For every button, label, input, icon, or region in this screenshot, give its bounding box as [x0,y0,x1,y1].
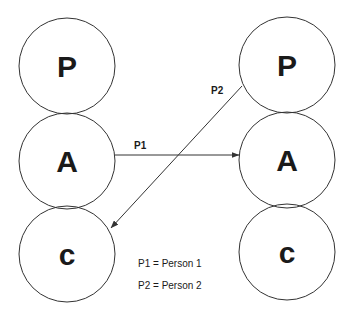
legend-item-p2: P2 = Person 2 [138,280,202,291]
left-column: P A c [19,18,115,302]
edge-label-p1: P1 [134,140,147,151]
node-right-c: c [239,204,335,300]
legend: P1 = Person 1 P2 = Person 2 [138,258,202,291]
right-column: P A c [239,17,335,300]
arrow-p2-line [111,86,242,228]
node-left-p: P [19,18,115,114]
node-label: c [279,236,296,269]
node-label: P [57,50,77,83]
node-right-a: A [239,112,335,208]
node-right-p: P [239,17,335,113]
node-left-c: c [19,206,115,302]
edge-p2: P2 [111,85,242,228]
edge-p1: P1 [115,140,239,155]
node-label: c [59,238,76,271]
node-label: A [276,144,298,177]
edge-label-p2: P2 [211,85,224,96]
legend-item-p1: P1 = Person 1 [138,258,202,269]
node-label: A [56,145,78,178]
node-label: P [277,49,297,82]
node-left-a: A [19,113,115,209]
transaction-diagram: P A c P A c P1 P2 [0,0,352,315]
